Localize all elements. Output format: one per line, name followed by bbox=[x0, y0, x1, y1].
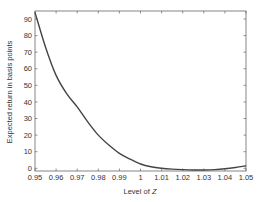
x-axis-ticks: 0.950.960.970.980.9911.011.021.031.041.0… bbox=[28, 11, 254, 182]
x-tick-label: 0.96 bbox=[49, 173, 64, 182]
x-tick-label: 0.99 bbox=[112, 173, 127, 182]
x-tick-label: 1.02 bbox=[175, 173, 190, 182]
plot-area bbox=[35, 11, 246, 171]
x-tick-label: 1 bbox=[138, 173, 142, 182]
y-tick-label: 60 bbox=[24, 64, 32, 73]
y-tick-label: 80 bbox=[24, 31, 32, 40]
x-tick-label: 1.04 bbox=[218, 173, 233, 182]
x-tick-label: 1.03 bbox=[196, 173, 211, 182]
plot-frame bbox=[35, 11, 246, 171]
y-axis-label: Expected return in basis points bbox=[5, 40, 14, 143]
y-tick-label: 50 bbox=[24, 81, 32, 90]
x-tick-label: 1.05 bbox=[239, 173, 254, 182]
y-tick-label: 10 bbox=[24, 147, 32, 156]
y-tick-label: 40 bbox=[24, 98, 32, 107]
y-tick-label: 70 bbox=[24, 48, 32, 57]
x-tick-label: 0.98 bbox=[91, 173, 106, 182]
y-tick-label: 90 bbox=[24, 15, 32, 24]
x-axis-label: Level of Z bbox=[124, 187, 157, 196]
x-tick-label: 0.97 bbox=[70, 173, 85, 182]
x-tick-label: 1.01 bbox=[154, 173, 169, 182]
x-tick-label: 0.95 bbox=[28, 173, 43, 182]
chart: 0.950.960.970.980.9911.011.021.031.041.0… bbox=[0, 0, 262, 202]
y-tick-label: 20 bbox=[24, 131, 32, 140]
y-axis-ticks: 0102030405060708090 bbox=[24, 15, 246, 173]
data-line bbox=[35, 12, 246, 170]
y-tick-label: 30 bbox=[24, 114, 32, 123]
y-tick-label: 0 bbox=[28, 164, 32, 173]
